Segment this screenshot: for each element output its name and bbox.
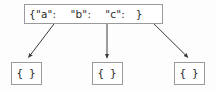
leaf-object-label-1: { } — [97, 67, 118, 80]
edge-c-to-leaf-2 — [149, 19, 188, 58]
leaf-object-node-0[interactable]: { } — [11, 62, 42, 85]
root-object-node[interactable]: {"a": "b": "c": } — [24, 4, 163, 24]
edge-a-to-leaf-0 — [29, 20, 58, 58]
root-object-label: {"a": "b": "c": } — [29, 8, 143, 20]
diagram-canvas: {"a": "b": "c": } { } { } { } — [0, 0, 216, 91]
leaf-object-node-1[interactable]: { } — [92, 62, 123, 85]
leaf-object-label-0: { } — [16, 67, 37, 80]
leaf-object-label-2: { } — [179, 67, 200, 80]
leaf-object-node-2[interactable]: { } — [174, 62, 205, 85]
